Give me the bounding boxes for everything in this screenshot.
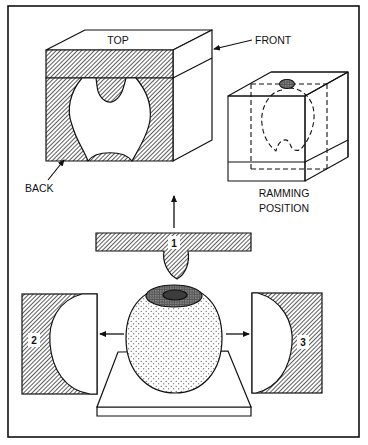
label-top: TOP (107, 34, 128, 46)
ovoid-form (126, 285, 222, 393)
label-position: POSITION (259, 202, 309, 214)
arrow-front (214, 40, 252, 49)
part-2-number: 2 (31, 335, 37, 346)
ramming-cube (228, 72, 348, 181)
cube-top-band (46, 50, 173, 78)
part-3-number: 3 (300, 337, 306, 348)
part-3-right-mold (252, 293, 322, 393)
mold-cube (46, 30, 212, 161)
label-ramming: RAMMING (259, 187, 310, 199)
label-front: FRONT (255, 34, 292, 46)
ovoid-opening (163, 290, 187, 300)
ramming-sprue (280, 80, 295, 89)
mold-diagram: TOP FRONT BACK RAMMING POSITION (0, 0, 368, 445)
cube-right-face (173, 30, 212, 161)
label-back: BACK (25, 182, 54, 194)
part-1-number: 1 (171, 238, 177, 249)
arrow-back (48, 160, 64, 180)
